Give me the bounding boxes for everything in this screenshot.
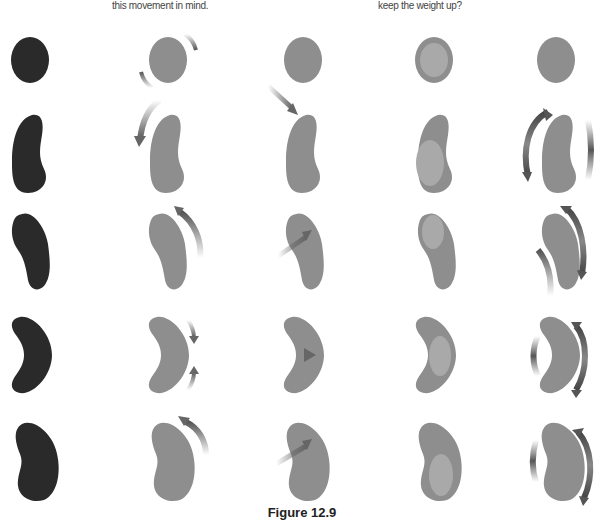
circle-highlight: [415, 37, 453, 83]
row-bean-wide: [16, 416, 591, 506]
circle-dark: [11, 37, 49, 83]
figure-title: Figure 12.9: [0, 505, 604, 520]
row-circle: [11, 34, 575, 88]
circle-arcs: [537, 37, 575, 83]
row-bean-narrow: [12, 206, 587, 296]
row-crescent: [12, 317, 585, 398]
figure-grid: [0, 0, 604, 526]
circle-rotation: [141, 34, 196, 88]
circle-force: [284, 37, 322, 83]
row-bean-upright: [12, 86, 591, 193]
